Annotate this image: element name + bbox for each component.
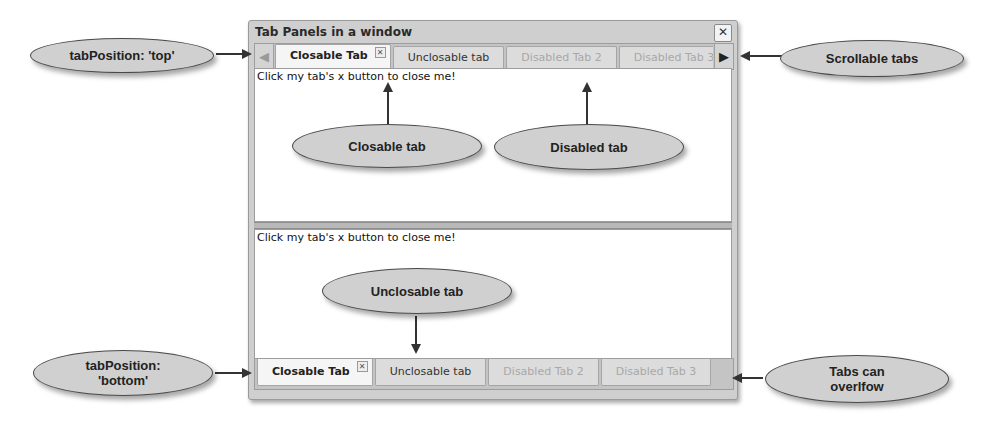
- callout-tabs-overflow: Tabs can overlfow: [765, 355, 949, 403]
- callout-scrollable-tabs: Scrollable tabs: [780, 40, 964, 77]
- callout-closable-tab: Closable tab: [292, 124, 482, 168]
- callout-unclosable-tab: Unclosable tab: [322, 268, 512, 314]
- callout-tab-position-bottom: tabPosition: 'bottom': [33, 350, 213, 396]
- callout-tab-position-top: tabPosition: 'top': [30, 38, 214, 73]
- callout-disabled-tab: Disabled tab: [494, 124, 684, 170]
